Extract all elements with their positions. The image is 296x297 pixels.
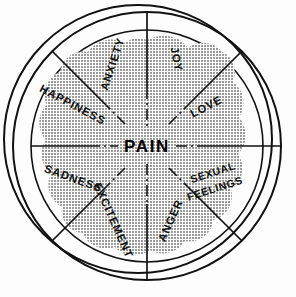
rim-tick-nw — [51, 50, 65, 64]
rim-tick-sw — [51, 228, 65, 242]
pain-emotion-wheel-diagram: JOY LOVE SEXUAL FEELINGS ANGER EXCITEMEN… — [0, 0, 296, 297]
center-label-pain: PAIN — [124, 137, 170, 156]
rim-tick-ne — [229, 50, 243, 64]
diagram-canvas: JOY LOVE SEXUAL FEELINGS ANGER EXCITEMEN… — [0, 0, 296, 297]
